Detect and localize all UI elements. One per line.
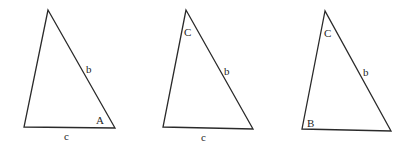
- triangle-1-side-c-label: c: [64, 130, 69, 142]
- triangle-2-side-b-label: b: [224, 65, 230, 77]
- triangle-3-angle-b-label: B: [307, 117, 314, 129]
- triangle-1: b A c: [24, 10, 115, 142]
- triangle-2-outline: [163, 10, 253, 129]
- triangle-2-side-c-label: c: [201, 131, 206, 143]
- triangle-1-side-b-label: b: [86, 63, 92, 75]
- triangle-2-angle-c-label: C: [184, 26, 191, 38]
- triangle-2: C b c: [163, 10, 253, 143]
- triangle-3-angle-c-label: C: [324, 27, 331, 39]
- triangle-3-outline: [302, 11, 391, 131]
- triangle-3: C b B: [302, 11, 391, 131]
- triangle-1-angle-a-label: A: [96, 114, 104, 126]
- triangle-1-outline: [24, 10, 115, 128]
- triangle-3-side-b-label: b: [363, 66, 369, 78]
- triangle-diagram: b A c C b c C b B: [0, 0, 413, 153]
